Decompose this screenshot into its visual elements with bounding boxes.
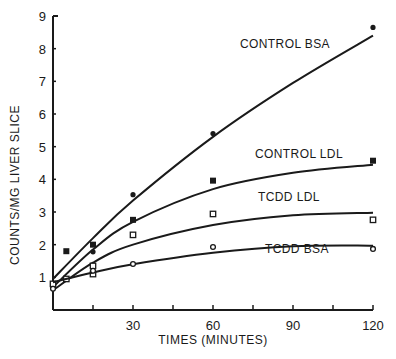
y-tick-label: 8 (39, 42, 46, 57)
tcdd-ldl-point (370, 217, 375, 222)
y-tick-label: 9 (39, 9, 46, 24)
y-tick-label: 1 (39, 270, 46, 285)
x-axis-label: TIMES (MINUTES) (53, 333, 373, 347)
control-ldl-point (210, 178, 216, 184)
control-bsa-point (130, 192, 135, 197)
x-tick-label: 120 (362, 318, 384, 333)
control-ldl-point (90, 242, 96, 248)
tcdd-bsa-label: TCDD BSA (265, 242, 329, 256)
y-axis-label-text: COUNTS/MG LIVER SLICE (8, 105, 22, 265)
tcdd-bsa-point (51, 286, 56, 291)
y-tick-label: 4 (39, 172, 46, 187)
x-tick-label: 30 (126, 318, 140, 333)
tcdd-bsa-point (371, 247, 376, 252)
control-bsa-point (370, 25, 375, 30)
control-bsa-point (210, 131, 215, 136)
y-tick-label: 7 (39, 74, 46, 89)
tcdd-ldl-label: TCDD LDL (258, 190, 320, 204)
tcdd-bsa-point (131, 262, 136, 267)
y-tick-label: 6 (39, 107, 46, 122)
control-ldl-point (130, 217, 136, 223)
tcdd-bsa-point (91, 268, 96, 273)
y-axis-label: COUNTS/MG LIVER SLICE (4, 60, 26, 310)
y-tick-label: 5 (39, 140, 46, 155)
tcdd-ldl-point (210, 211, 215, 216)
control-bsa-label: CONTROL BSA (240, 37, 330, 51)
control-ldl-label: CONTROL LDL (255, 147, 343, 161)
tcdd-bsa-point (211, 245, 216, 250)
y-tick-label: 2 (39, 238, 46, 253)
control-ldl-point (370, 158, 376, 164)
line-chart: 123456789306090120CONTROL BSACONTROL LDL… (0, 0, 396, 359)
tcdd-ldl-point (130, 232, 135, 237)
control-ldl-point (63, 248, 69, 254)
x-tick-label: 60 (206, 318, 220, 333)
y-tick-label: 3 (39, 205, 46, 220)
x-tick-label: 90 (286, 318, 300, 333)
